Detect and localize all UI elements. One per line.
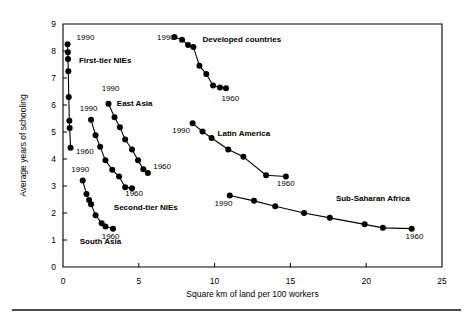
series-end-year-label: 1960 xyxy=(125,189,143,198)
series-start-year-label: 1990 xyxy=(172,126,190,135)
y-tick-label: 5 xyxy=(51,127,56,137)
y-tick-label: 6 xyxy=(51,100,56,110)
data-point xyxy=(145,170,151,176)
series-name-label: East Asia xyxy=(117,99,153,108)
data-point xyxy=(84,191,90,197)
y-tick-label: 8 xyxy=(51,46,56,56)
y-tick-label: 9 xyxy=(51,19,56,29)
data-point xyxy=(203,71,209,77)
chart-figure: 05101520250123456789Square km of land pe… xyxy=(0,0,473,315)
data-point xyxy=(65,56,71,62)
data-point xyxy=(116,174,122,180)
data-point xyxy=(217,84,223,90)
series-start-year-label: 1990 xyxy=(157,33,175,42)
series-end-year-label: 1960 xyxy=(277,179,295,188)
data-point xyxy=(185,42,191,48)
series-name-label: First-tier NIEs xyxy=(79,56,132,65)
data-point xyxy=(225,147,231,153)
data-point xyxy=(67,125,73,131)
y-axis-title: Average years of schooling xyxy=(18,94,28,197)
data-point xyxy=(80,178,86,184)
data-point xyxy=(65,49,71,55)
schooling-vs-land-line-chart: 05101520250123456789Square km of land pe… xyxy=(0,0,473,315)
data-point xyxy=(263,172,269,178)
x-tick-label: 0 xyxy=(61,276,66,286)
data-point xyxy=(122,137,128,143)
data-point xyxy=(179,37,185,43)
series-first-tier-nies xyxy=(65,41,74,150)
data-point xyxy=(362,221,368,227)
y-tick-label: 3 xyxy=(51,181,56,191)
series-end-year-label: 1960 xyxy=(406,232,424,241)
data-point xyxy=(68,145,74,151)
data-point xyxy=(65,68,71,74)
data-point xyxy=(301,210,307,216)
data-point xyxy=(129,147,135,153)
x-tick-label: 25 xyxy=(437,276,447,286)
data-point xyxy=(209,135,215,141)
series-start-year-label: 1990 xyxy=(215,199,233,208)
data-point xyxy=(88,201,94,207)
series-name-label: Latin America xyxy=(218,129,271,138)
series-start-year-label: 1990 xyxy=(80,104,98,113)
data-point xyxy=(227,192,233,198)
series-line xyxy=(108,104,147,173)
series-line xyxy=(91,120,132,188)
data-point xyxy=(199,128,205,134)
data-point xyxy=(102,224,108,230)
series-end-year-label: 1960 xyxy=(76,147,94,156)
x-tick-label: 15 xyxy=(286,276,296,286)
data-point xyxy=(112,114,118,120)
series-south-asia xyxy=(80,178,116,232)
series-start-year-label: 1990 xyxy=(71,165,89,174)
x-axis-title: Square km of land per 100 workers xyxy=(186,289,318,299)
series-end-year-label: 1960 xyxy=(102,232,120,241)
data-point xyxy=(272,203,278,209)
data-point xyxy=(93,212,99,218)
data-point xyxy=(65,41,71,47)
series-name-label: Second-tier NIEs xyxy=(114,203,179,212)
x-tick-label: 20 xyxy=(361,276,371,286)
y-tick-label: 2 xyxy=(51,208,56,218)
data-point xyxy=(66,118,72,124)
series-end-year-label: 1960 xyxy=(221,94,239,103)
data-point xyxy=(105,101,111,107)
series-east-asia xyxy=(105,101,150,176)
series-start-year-label: 1990 xyxy=(77,33,95,42)
data-point xyxy=(196,63,202,69)
data-point xyxy=(66,94,72,100)
y-tick-label: 1 xyxy=(51,235,56,245)
series-end-year-label: 1960 xyxy=(153,162,171,171)
data-point xyxy=(327,215,333,221)
x-tick-label: 10 xyxy=(210,276,220,286)
data-point xyxy=(109,167,115,173)
data-point xyxy=(117,124,123,130)
data-point xyxy=(135,157,141,163)
data-point xyxy=(240,154,246,160)
series-start-year-label: 1990 xyxy=(102,84,120,93)
data-point xyxy=(97,144,103,150)
data-point xyxy=(190,120,196,126)
data-point xyxy=(380,225,386,231)
x-tick-label: 5 xyxy=(136,276,141,286)
series-line xyxy=(83,181,113,229)
data-point xyxy=(93,132,99,138)
y-tick-label: 0 xyxy=(51,262,56,272)
series-name-label: Developed countries xyxy=(203,35,282,44)
y-tick-label: 4 xyxy=(51,154,56,164)
data-point xyxy=(88,117,94,123)
data-point xyxy=(102,157,108,163)
series-name-label: Sub-Saharan Africa xyxy=(336,194,410,203)
data-point xyxy=(210,83,216,89)
series-line xyxy=(174,37,226,88)
data-point xyxy=(223,85,229,91)
data-point xyxy=(190,44,196,50)
y-tick-label: 7 xyxy=(51,73,56,83)
series-second-tier-nies xyxy=(88,117,135,191)
data-point xyxy=(251,198,257,204)
